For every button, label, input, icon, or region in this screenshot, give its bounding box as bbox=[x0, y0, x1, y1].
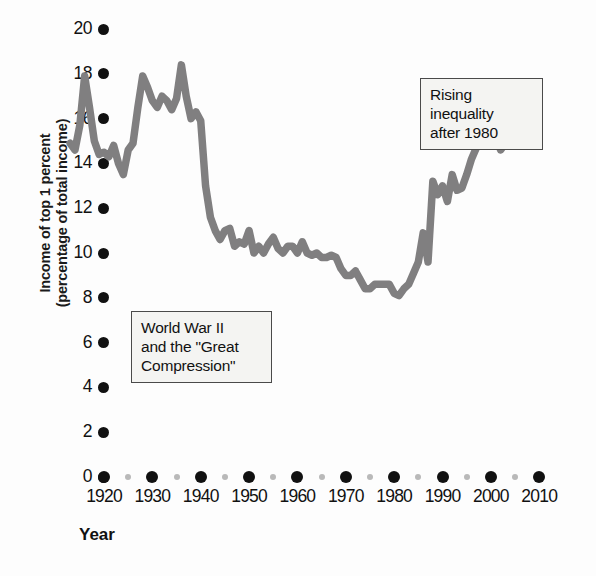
annotation-rising-inequality: Rising inequality after 1980 bbox=[420, 78, 543, 150]
annotation-wwii-line1: World War II bbox=[141, 318, 263, 337]
annotation-rising-line3: after 1980 bbox=[430, 123, 534, 142]
annotation-rising-line1: Rising bbox=[430, 85, 534, 104]
annotation-world-war-2: World War II and the "Great Compression" bbox=[131, 311, 272, 383]
chart-figure: Income of top 1 percent (percentage of t… bbox=[0, 0, 596, 576]
annotation-wwii-line2: and the "Great bbox=[141, 337, 263, 356]
annotation-wwii-line3: Compression" bbox=[141, 356, 263, 375]
annotation-rising-line2: inequality bbox=[430, 104, 534, 123]
